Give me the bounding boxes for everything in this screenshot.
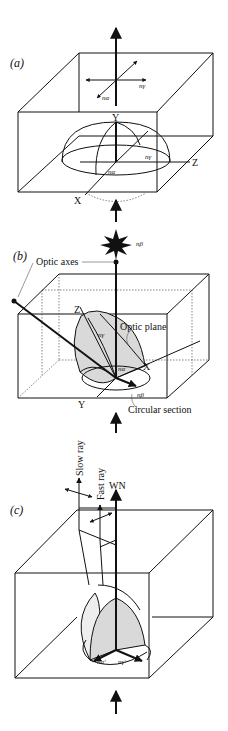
optic-axis-point-left — [12, 299, 17, 304]
index-label-nalpha-b: nα — [118, 365, 126, 373]
optical-indicatrix-figure: (a) Y Z X nγ nα nγ — [0, 0, 228, 731]
axis-label-z-a: Z — [192, 157, 198, 168]
label-circular-section: Circular section — [128, 404, 192, 415]
index-label-nbeta-top: nβ — [136, 240, 144, 248]
axis-label-y-b: Y — [78, 399, 85, 410]
index-label-nbeta-bottom: nβ — [137, 391, 145, 399]
index-label-nalpha-top: nα — [102, 94, 110, 102]
label-optic-plane: Optic plane — [120, 321, 167, 332]
fast-vibration-arrow — [90, 513, 112, 522]
label-fast-ray: Fast ray — [95, 468, 106, 500]
panel-b-label: (b) — [13, 249, 27, 263]
optic-axis-point-top — [114, 260, 119, 265]
panel-c-label: (c) — [10, 503, 23, 517]
index-label-nalpha-body: nα — [108, 168, 116, 176]
x-axis-a — [85, 162, 116, 195]
label-wave-normal: WN — [109, 480, 126, 491]
starburst-icon — [100, 229, 132, 260]
axis-label-y-a: Y — [112, 112, 119, 123]
axis-label-z-b: Z — [74, 304, 80, 315]
index-label-ngamma-b: nγ — [98, 331, 105, 339]
axis-label-x-b: X — [143, 361, 151, 372]
index-label-nalpha-prime: nα′ — [97, 658, 106, 666]
label-optic-axes: Optic axes — [36, 256, 79, 267]
crystal-box-c — [15, 510, 213, 678]
panel-a: (a) Y Z X nγ nα nγ — [10, 28, 213, 222]
axis-label-x-a: X — [74, 195, 82, 206]
panel-a-label: (a) — [10, 56, 24, 70]
label-slow-ray: Slow ray — [74, 440, 85, 476]
index-label-ngamma-top: nγ — [139, 82, 146, 90]
index-label-ngamma-body: nγ — [145, 153, 152, 161]
panel-b: (b) nβ — [12, 229, 210, 433]
panel-c: (c) Slow ray — [10, 440, 213, 714]
index-label-ngamma-prime: nγ′ — [118, 658, 126, 666]
nbeta-arrow — [116, 378, 136, 386]
